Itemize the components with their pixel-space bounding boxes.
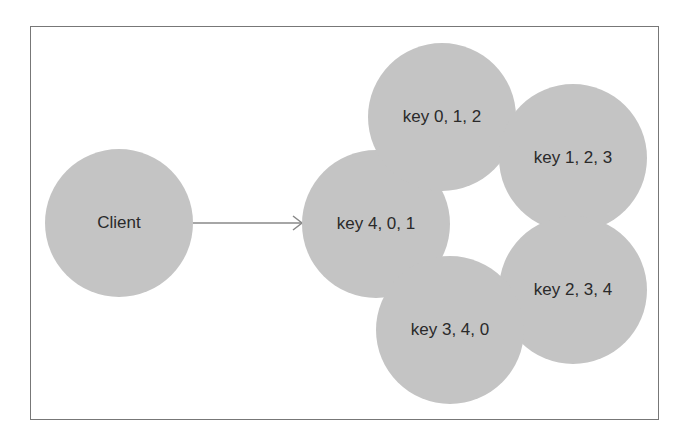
- node-label: key 1, 2, 3: [534, 148, 612, 168]
- node-label: key 4, 0, 1: [337, 214, 415, 234]
- node-label: key 0, 1, 2: [403, 107, 481, 127]
- ring-node-key-0-1-2: key 0, 1, 2: [368, 43, 516, 191]
- node-label: key 3, 4, 0: [411, 320, 489, 340]
- client-node: Client: [45, 149, 193, 297]
- ring-node-key-3-4-0: key 3, 4, 0: [376, 256, 524, 404]
- node-label: key 2, 3, 4: [534, 280, 612, 300]
- ring-node-key-1-2-3: key 1, 2, 3: [499, 84, 647, 232]
- client-label: Client: [97, 213, 140, 233]
